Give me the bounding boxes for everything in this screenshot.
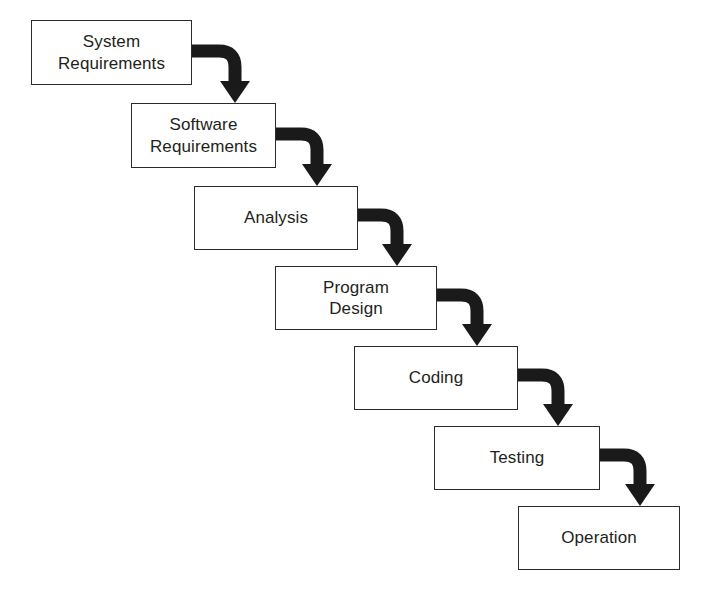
stage-box-testing[interactable]: Testing <box>434 426 600 490</box>
stage-label-coding: Coding <box>403 367 469 388</box>
stage-label-operation: Operation <box>555 527 643 548</box>
stage-label-system-requirements: System Requirements <box>52 31 171 74</box>
connector-arrow-system-to-software <box>192 51 250 103</box>
waterfall-diagram: System Requirements Software Requirement… <box>0 0 714 595</box>
connector-arrow-analysis-to-program-design <box>358 215 412 266</box>
stage-box-system-requirements[interactable]: System Requirements <box>31 20 192 85</box>
stage-label-software-requirements: Software Requirements <box>144 114 263 157</box>
connector-arrow-software-to-analysis <box>276 134 332 186</box>
stage-box-program-design[interactable]: Program Design <box>275 266 437 330</box>
connector-arrow-coding-to-testing <box>518 375 573 426</box>
stage-label-program-design: Program Design <box>317 277 395 320</box>
stage-box-software-requirements[interactable]: Software Requirements <box>131 103 276 168</box>
stage-box-coding[interactable]: Coding <box>354 346 518 410</box>
stage-label-analysis: Analysis <box>238 207 314 228</box>
connector-arrow-program-design-to-coding <box>437 295 492 346</box>
connector-arrow-testing-to-operation <box>600 455 655 506</box>
stage-box-operation[interactable]: Operation <box>518 506 680 570</box>
stage-box-analysis[interactable]: Analysis <box>194 186 358 250</box>
stage-label-testing: Testing <box>484 447 551 468</box>
